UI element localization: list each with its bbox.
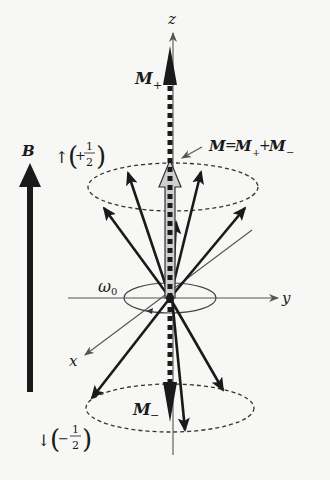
- svg-text:M: M: [134, 69, 154, 88]
- svg-text:↓: ↓: [37, 431, 50, 450]
- spin-down-label: ↓ ( − 1 2 ): [37, 423, 92, 454]
- svg-text:M: M: [132, 400, 152, 419]
- y-axis-label: y: [281, 289, 291, 307]
- svg-text:↑: ↑: [55, 148, 68, 167]
- svg-text:): ): [96, 141, 106, 171]
- svg-text:): ): [82, 424, 92, 454]
- b-field-label: B: [21, 142, 35, 160]
- svg-text:+: +: [153, 79, 162, 92]
- net-m-pointer-line: [182, 147, 202, 158]
- svg-text:1: 1: [86, 140, 93, 153]
- svg-text:M: M: [268, 137, 286, 155]
- svg-text:2: 2: [72, 439, 79, 452]
- svg-text:−: −: [150, 409, 159, 422]
- net-m-equation-label: M = M + + M −: [208, 137, 294, 158]
- svg-text:−: −: [286, 147, 294, 158]
- svg-text:M: M: [234, 137, 252, 155]
- z-axis-label: z: [167, 10, 176, 28]
- m-minus-label: M −: [132, 400, 159, 422]
- m-plus-label: M +: [134, 69, 162, 92]
- svg-text:M: M: [208, 137, 226, 155]
- svg-text:1: 1: [72, 423, 79, 436]
- svg-text:ω: ω: [98, 277, 111, 296]
- svg-text:−: −: [58, 431, 69, 446]
- omega-zero-label: ω 0: [98, 277, 117, 297]
- svg-text:0: 0: [111, 286, 117, 297]
- svg-text:2: 2: [86, 156, 93, 169]
- spin-up-label: ↑ ( + 1 2 ): [55, 140, 106, 171]
- origin-point: [166, 294, 174, 302]
- svg-text:+: +: [75, 148, 86, 163]
- b-field-arrow: [19, 163, 41, 392]
- spin-precession-diagram: B ↑ ( + 1 2 ) ↓ ( − 1 2 ) z y x ω 0: [0, 0, 330, 480]
- x-axis-label: x: [69, 352, 78, 370]
